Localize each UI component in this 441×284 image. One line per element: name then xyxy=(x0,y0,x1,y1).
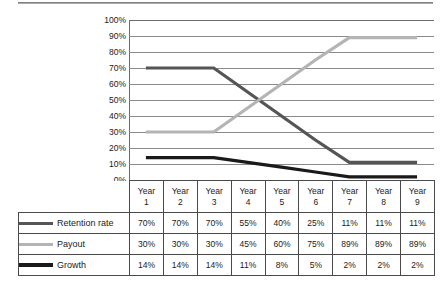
table-cell: 11% xyxy=(231,255,265,276)
table-row: Retention rate70%70%70%55%40%25%11%11%11… xyxy=(19,213,435,234)
y-axis-tick-label: 60% xyxy=(86,80,126,89)
y-axis-tick-label: 40% xyxy=(86,112,126,121)
column-header-line2: 4 xyxy=(232,197,265,208)
table-cell: 70% xyxy=(163,213,197,234)
table-cell: 75% xyxy=(299,234,333,255)
table-cell: 2% xyxy=(401,255,435,276)
column-header-line1: Year xyxy=(367,186,400,197)
table-cell: 14% xyxy=(130,255,164,276)
column-header-line1: Year xyxy=(130,186,163,197)
table-cell: 11% xyxy=(367,213,401,234)
column-header-line2: 7 xyxy=(333,197,366,208)
y-axis-tick-label: 10% xyxy=(86,160,126,169)
legend-row-payout[interactable]: Payout xyxy=(19,234,130,255)
table-cell: 25% xyxy=(299,213,333,234)
y-axis-tick-label: 80% xyxy=(86,48,126,57)
column-header-line1: Year xyxy=(232,186,265,197)
table-cell: 89% xyxy=(333,234,367,255)
legend-label: Retention rate xyxy=(57,218,114,228)
column-header-line1: Year xyxy=(333,186,366,197)
column-header-line2: 1 xyxy=(130,197,163,208)
column-header-year-2: Year2 xyxy=(163,181,197,213)
column-header-line2: 9 xyxy=(401,197,434,208)
y-axis: 100%90%80%70%60%50%40%30%20%10%0% xyxy=(86,14,126,176)
column-header-year-8: Year8 xyxy=(367,181,401,213)
column-header-line1: Year xyxy=(198,186,231,197)
table-row: Payout30%30%30%45%60%75%89%89%89% xyxy=(19,234,435,255)
column-header-year-4: Year4 xyxy=(231,181,265,213)
column-header-year-6: Year6 xyxy=(299,181,333,213)
table-cell: 89% xyxy=(401,234,435,255)
y-axis-tick-label: 90% xyxy=(86,32,126,41)
legend-row-growth[interactable]: Growth xyxy=(19,255,130,276)
data-table-wrapper: Year1Year2Year3Year4Year5Year6Year7Year8… xyxy=(18,180,434,276)
column-header-line2: 6 xyxy=(299,197,332,208)
legend-swatch-icon xyxy=(19,243,53,246)
column-header-year-3: Year3 xyxy=(197,181,231,213)
table-cell: 11% xyxy=(333,213,367,234)
column-header-line1: Year xyxy=(164,186,197,197)
column-header-year-1: Year1 xyxy=(130,181,164,213)
table-cell: 70% xyxy=(197,213,231,234)
y-axis-tick-label: 20% xyxy=(86,144,126,153)
series-line-growth xyxy=(146,158,417,177)
y-axis-tick-label: 30% xyxy=(86,128,126,137)
legend-label: Payout xyxy=(57,239,85,249)
table-cell: 45% xyxy=(231,234,265,255)
table-cell: 40% xyxy=(265,213,299,234)
line-chart: 100%90%80%70%60%50%40%30%20%10%0% xyxy=(0,14,441,182)
y-axis-tick-label: 100% xyxy=(86,16,126,25)
legend-swatch-icon xyxy=(19,263,53,267)
table-cell: 11% xyxy=(401,213,435,234)
column-header-year-7: Year7 xyxy=(333,181,367,213)
legend-row-retention-rate[interactable]: Retention rate xyxy=(19,213,130,234)
column-header-line2: 8 xyxy=(367,197,400,208)
table-cell: 30% xyxy=(197,234,231,255)
table-cell: 89% xyxy=(367,234,401,255)
legend-label: Growth xyxy=(57,260,86,270)
column-header-line2: 5 xyxy=(266,197,299,208)
column-header-line1: Year xyxy=(266,186,299,197)
column-header-year-5: Year5 xyxy=(265,181,299,213)
column-header-line2: 3 xyxy=(198,197,231,208)
table-cell: 14% xyxy=(197,255,231,276)
table-cell: 55% xyxy=(231,213,265,234)
column-header-line2: 2 xyxy=(164,197,197,208)
y-axis-tick-label: 70% xyxy=(86,64,126,73)
column-header-line1: Year xyxy=(299,186,332,197)
top-divider-rule xyxy=(18,2,433,4)
table-cell: 2% xyxy=(367,255,401,276)
legend-swatch-icon xyxy=(19,222,53,225)
plot-area xyxy=(129,20,434,180)
y-axis-tick-label: 50% xyxy=(86,96,126,105)
column-header-line1: Year xyxy=(401,186,434,197)
table-cell: 30% xyxy=(130,234,164,255)
table-header-row: Year1Year2Year3Year4Year5Year6Year7Year8… xyxy=(19,181,435,213)
table-cell: 2% xyxy=(333,255,367,276)
table-corner-spacer xyxy=(19,181,130,213)
table-cell: 30% xyxy=(163,234,197,255)
table-cell: 5% xyxy=(299,255,333,276)
data-table: Year1Year2Year3Year4Year5Year6Year7Year8… xyxy=(18,180,435,276)
table-cell: 14% xyxy=(163,255,197,276)
table-cell: 70% xyxy=(130,213,164,234)
table-cell: 8% xyxy=(265,255,299,276)
column-header-year-9: Year9 xyxy=(401,181,435,213)
series-layer xyxy=(129,20,434,180)
table-row: Growth14%14%14%11%8%5%2%2%2% xyxy=(19,255,435,276)
table-cell: 60% xyxy=(265,234,299,255)
